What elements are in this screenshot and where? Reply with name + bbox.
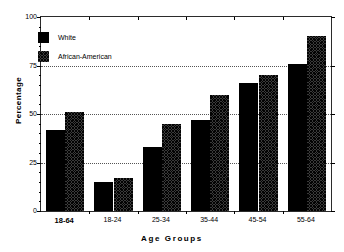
y-tick-0 — [37, 211, 41, 212]
y-minor-tick-10 — [39, 192, 41, 193]
bar-25-34-african-american — [162, 124, 181, 211]
x-tick-top-5 — [283, 17, 284, 20]
legend-label-african-american: African-American — [58, 53, 112, 60]
y-minor-tick-15 — [39, 182, 41, 183]
x-tick-top-2 — [138, 17, 139, 20]
y-tick-right-75 — [331, 66, 335, 67]
bar-18-64-white — [46, 130, 65, 211]
x-category-label-35-44: 35-44 — [200, 216, 218, 223]
legend-swatch-white — [38, 32, 49, 43]
y-minor-tick-30 — [39, 153, 41, 154]
y-tick-label-25: 25 — [13, 159, 37, 166]
x-tick-1 — [89, 211, 90, 214]
legend-swatch-african-american — [38, 51, 49, 62]
y-tick-25 — [37, 163, 41, 164]
bar-45-54-white — [239, 83, 258, 211]
y-tick-label-50: 50 — [13, 110, 37, 117]
bar-35-44-white — [191, 120, 210, 211]
bar-25-34-white — [143, 147, 162, 211]
y-tick-right-25 — [331, 163, 335, 164]
bar-35-44-african-american — [210, 95, 229, 211]
bar-18-24-african-american — [114, 178, 133, 211]
y-minor-tick-35 — [39, 143, 41, 144]
x-tick-5 — [283, 211, 284, 214]
x-tick-top-3 — [186, 17, 187, 20]
y-minor-tick-45 — [39, 124, 41, 125]
bar-chart-figure: Percentage Age Groups 0255075100 White A… — [0, 0, 344, 252]
y-minor-tick-60 — [39, 95, 41, 96]
y-minor-tick-95 — [39, 27, 41, 28]
y-minor-tick-40 — [39, 133, 41, 134]
x-category-label-18-64: 18-64 — [55, 216, 74, 225]
x-axis-title: Age Groups — [0, 234, 344, 243]
x-tick-4 — [234, 211, 235, 214]
y-tick-right-0 — [331, 211, 335, 212]
y-minor-tick-5 — [39, 201, 41, 202]
y-minor-tick-20 — [39, 172, 41, 173]
x-category-label-25-34: 25-34 — [152, 216, 170, 223]
legend-label-white: White — [58, 34, 76, 41]
y-tick-50 — [37, 114, 41, 115]
y-minor-tick-55 — [39, 104, 41, 105]
bar-18-64-african-american — [65, 112, 84, 211]
x-tick-top-4 — [234, 17, 235, 20]
y-tick-100 — [37, 17, 41, 18]
y-tick-right-50 — [331, 114, 335, 115]
y-axis-title: Percentage — [14, 56, 23, 146]
bar-45-54-african-american — [259, 75, 278, 211]
x-tick-3 — [186, 211, 187, 214]
x-tick-top-1 — [89, 17, 90, 20]
x-tick-2 — [138, 211, 139, 214]
y-minor-tick-70 — [39, 75, 41, 76]
bar-55-64-white — [288, 64, 307, 211]
x-category-label-45-54: 45-54 — [249, 216, 267, 223]
y-tick-label-100: 100 — [13, 13, 37, 20]
y-tick-label-0: 0 — [13, 207, 37, 214]
bar-18-24-white — [94, 182, 113, 211]
legend-item-african-american: African-American — [38, 49, 158, 63]
y-tick-right-100 — [331, 17, 335, 18]
x-category-label-18-24: 18-24 — [104, 216, 122, 223]
legend: White African-American — [38, 30, 158, 68]
legend-item-white: White — [38, 30, 158, 44]
bar-55-64-african-american — [307, 36, 326, 211]
x-category-label-55-64: 55-64 — [297, 216, 315, 223]
y-tick-label-75: 75 — [13, 62, 37, 69]
y-minor-tick-65 — [39, 85, 41, 86]
